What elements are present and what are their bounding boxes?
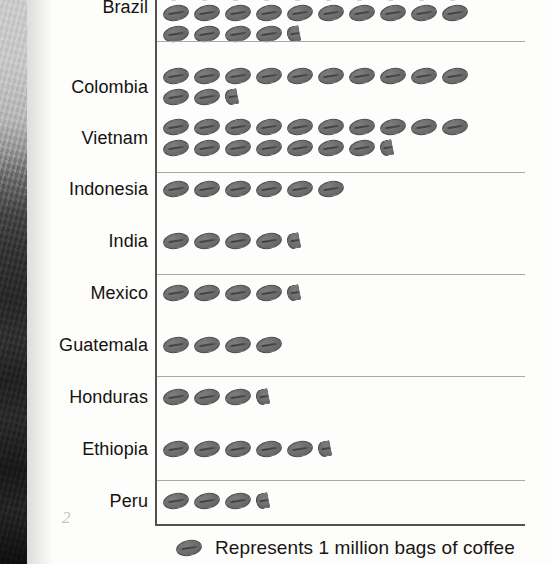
row-label-peru: Peru <box>110 476 148 527</box>
coffee-bean-icon <box>287 117 318 138</box>
legend-label: Represents 1 million bags of coffee <box>215 537 515 559</box>
row-label-indonesia: Indonesia <box>69 164 148 215</box>
pictograph-row: Honduras <box>0 372 553 423</box>
coffee-bean-icon <box>225 66 256 87</box>
coffee-bean-icon <box>163 231 194 252</box>
coffee-bean-icon <box>163 138 194 159</box>
coffee-bean-icon <box>256 335 287 356</box>
coffee-bean-icon <box>442 66 473 87</box>
coffee-bean-icon <box>318 3 349 24</box>
coffee-bean-icon <box>194 335 225 356</box>
coffee-bean-icon <box>287 66 318 87</box>
coffee-bean-icon <box>256 117 287 138</box>
coffee-bean-icon <box>194 231 225 252</box>
pictograph-row: Guatemala <box>0 320 553 371</box>
icon-line <box>163 87 256 108</box>
coffee-bean-icon <box>194 117 225 138</box>
coffee-bean-icon <box>380 3 411 24</box>
coffee-bean-icon <box>163 283 194 304</box>
coffee-bean-icon <box>225 138 256 159</box>
row-label-vietnam: Vietnam <box>82 113 148 164</box>
icon-line <box>163 138 411 159</box>
icon-line <box>163 179 349 200</box>
coffee-bean-half-icon <box>287 231 318 252</box>
pictograph-row: Mexico <box>0 268 553 319</box>
coffee-bean-icon <box>225 491 256 512</box>
icon-line <box>163 3 473 24</box>
coffee-bean-half-icon <box>225 87 256 108</box>
coffee-bean-icon <box>349 138 380 159</box>
coffee-bean-icon <box>194 66 225 87</box>
pictograph-row: Vietnam <box>0 113 553 164</box>
coffee-bean-half-icon <box>256 491 287 512</box>
coffee-bean-icon <box>194 138 225 159</box>
icon-line <box>163 491 287 512</box>
coffee-bean-icon <box>287 179 318 200</box>
icon-line <box>163 283 318 304</box>
coffee-bean-icon <box>287 3 318 24</box>
pictograph-row: India <box>0 216 553 267</box>
row-label-honduras: Honduras <box>69 372 148 423</box>
coffee-bean-icon <box>194 179 225 200</box>
coffee-bean-icon <box>380 117 411 138</box>
coffee-bean-icon <box>194 283 225 304</box>
row-label-ethiopia: Ethiopia <box>82 424 148 475</box>
coffee-bean-icon <box>442 3 473 24</box>
coffee-bean-icon <box>225 117 256 138</box>
coffee-bean-icon <box>318 117 349 138</box>
coffee-bean-icon <box>163 491 194 512</box>
coffee-bean-icon <box>194 491 225 512</box>
coffee-bean-half-icon <box>256 387 287 408</box>
pictograph-row: Brazil <box>0 0 553 33</box>
coffee-bean-icon <box>163 387 194 408</box>
pictograph-row: Colombia <box>0 62 553 113</box>
coffee-bean-icon <box>349 3 380 24</box>
pictograph-row: Peru <box>0 476 553 527</box>
coffee-bean-icon <box>349 66 380 87</box>
coffee-bean-icon <box>256 231 287 252</box>
coffee-bean-icon <box>163 66 194 87</box>
coffee-bean-icon <box>225 335 256 356</box>
pictograph-row: Ethiopia <box>0 424 553 475</box>
icon-line <box>163 117 473 138</box>
coffee-bean-icon <box>256 439 287 460</box>
coffee-bean-icon <box>225 179 256 200</box>
coffee-bean-icon <box>287 439 318 460</box>
icon-line <box>163 231 318 252</box>
chart-horizontal-axis <box>155 524 525 526</box>
coffee-bean-half-icon <box>318 439 349 460</box>
coffee-bean-icon <box>163 439 194 460</box>
coffee-bean-icon <box>194 3 225 24</box>
row-separator <box>156 41 525 42</box>
row-label-mexico: Mexico <box>90 268 148 319</box>
row-label-colombia: Colombia <box>71 62 148 113</box>
icon-line <box>163 66 473 87</box>
icon-line <box>163 335 287 356</box>
chart-legend: Represents 1 million bags of coffee <box>176 534 515 562</box>
coffee-bean-icon <box>256 179 287 200</box>
coffee-bean-icon <box>225 3 256 24</box>
icon-line <box>163 387 287 408</box>
coffee-bean-icon <box>256 66 287 87</box>
coffee-bean-icon <box>176 538 202 559</box>
coffee-bean-icon <box>225 439 256 460</box>
coffee-bean-icon <box>318 179 349 200</box>
coffee-bean-icon <box>256 3 287 24</box>
coffee-bean-icon <box>349 117 380 138</box>
coffee-bean-icon <box>225 387 256 408</box>
pictograph-chart: BrazilColombiaVietnamIndonesiaIndiaMexic… <box>0 0 553 564</box>
coffee-bean-icon <box>318 66 349 87</box>
coffee-bean-icon <box>256 138 287 159</box>
chart-vertical-axis <box>155 0 157 526</box>
pictograph-figure: 2 BrazilColombiaVietnamIndonesiaIndiaMex… <box>0 0 553 564</box>
coffee-bean-icon <box>411 66 442 87</box>
coffee-bean-icon <box>442 117 473 138</box>
coffee-bean-icon <box>256 283 287 304</box>
coffee-bean-icon <box>163 335 194 356</box>
row-label-brazil: Brazil <box>102 0 148 33</box>
coffee-bean-half-icon <box>287 283 318 304</box>
coffee-bean-icon <box>163 179 194 200</box>
coffee-bean-icon <box>225 231 256 252</box>
coffee-bean-icon <box>194 87 225 108</box>
coffee-bean-icon <box>287 138 318 159</box>
